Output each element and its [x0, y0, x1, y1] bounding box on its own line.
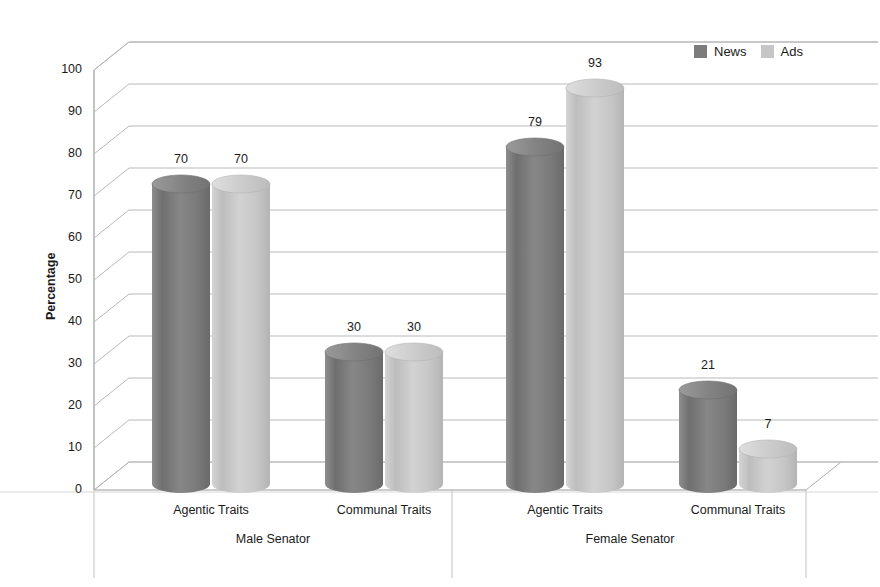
data-label-female-agentic-news: 79	[505, 115, 565, 129]
y-tick-80: 80	[42, 146, 82, 160]
category-label-female-agentic: Agentic Traits	[485, 503, 645, 517]
legend-item-ads[interactable]: Ads	[761, 44, 803, 59]
bar-male-communal-ads[interactable]	[385, 343, 443, 493]
data-label-male-communal-ads: 30	[384, 320, 444, 334]
group-label-male-senator: Male Senator	[153, 532, 393, 546]
y-tick-40: 40	[42, 314, 82, 328]
bar-female-agentic-ads[interactable]	[566, 79, 624, 493]
legend-label-news: News	[714, 44, 747, 59]
y-tick-50: 50	[42, 272, 82, 286]
data-label-female-communal-news: 21	[678, 358, 738, 372]
bar-male-agentic-news[interactable]	[152, 175, 210, 493]
bar-female-agentic-news[interactable]	[506, 138, 564, 493]
bar-male-agentic-ads[interactable]	[212, 175, 270, 493]
y-tick-0: 0	[42, 482, 82, 496]
legend-swatch-news-icon	[694, 45, 707, 58]
group-label-female-senator: Female Senator	[510, 532, 750, 546]
legend-swatch-ads-icon	[761, 45, 774, 58]
data-label-female-communal-ads: 7	[738, 417, 798, 431]
data-label-male-agentic-ads: 70	[211, 152, 271, 166]
data-label-male-communal-news: 30	[324, 320, 384, 334]
legend: News Ads	[694, 44, 803, 59]
bar-male-communal-news[interactable]	[325, 343, 383, 493]
y-tick-60: 60	[42, 230, 82, 244]
plot-3d-frame	[0, 42, 878, 578]
chart-plot-area	[0, 0, 880, 587]
y-tick-30: 30	[42, 356, 82, 370]
bar-female-communal-ads[interactable]	[739, 440, 797, 493]
y-tick-100: 100	[42, 62, 82, 76]
y-axis-title: Percentage	[44, 253, 58, 320]
category-label-male-agentic: Agentic Traits	[131, 503, 291, 517]
data-label-male-agentic-news: 70	[151, 152, 211, 166]
category-label-female-communal: Communal Traits	[658, 503, 818, 517]
y-tick-20: 20	[42, 398, 82, 412]
legend-label-ads: Ads	[781, 44, 803, 59]
data-label-female-agentic-ads: 93	[565, 56, 625, 70]
y-tick-70: 70	[42, 188, 82, 202]
chart-container: Percentage 100 90 80 70 60 50 40 30 20 1…	[0, 0, 880, 587]
legend-item-news[interactable]: News	[694, 44, 747, 59]
bar-female-communal-news[interactable]	[679, 381, 737, 493]
category-label-male-communal: Communal Traits	[304, 503, 464, 517]
y-tick-10: 10	[42, 440, 82, 454]
y-tick-90: 90	[42, 104, 82, 118]
